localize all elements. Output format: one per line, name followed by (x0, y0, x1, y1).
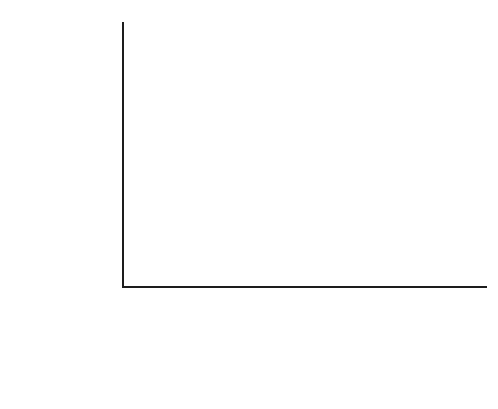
x-axis-line (122, 286, 487, 288)
y-axis-line (122, 22, 124, 288)
figure-9 (0, 0, 498, 409)
plot-area (122, 22, 487, 288)
x-axis-category-labels (122, 292, 498, 376)
